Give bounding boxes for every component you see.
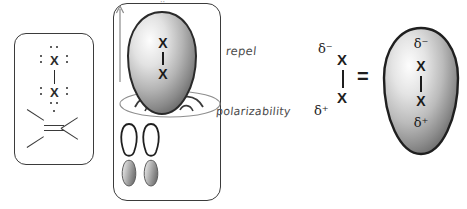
polarized-bond [342, 70, 344, 88]
label-polarizability: polarizability [215, 105, 291, 118]
mid-halogen-bottom-label: X [154, 67, 172, 81]
polarized-top-atom: X [337, 52, 347, 67]
lone-pair-dot [66, 61, 68, 63]
alkene-double-bond-line [44, 130, 64, 131]
lone-pair-dot-faint [53, 110, 55, 112]
right-bond [420, 76, 422, 92]
lewis-single-bond [54, 70, 55, 84]
alkene-bond-line [27, 136, 45, 148]
lone-pair-dot [56, 46, 58, 48]
lewis-structure-group: X X [15, 34, 93, 164]
right-bottom-atom: X [402, 94, 440, 108]
figure-canvas: ·· X X [0, 0, 467, 209]
mid-halogen-bond [162, 52, 164, 65]
lone-pair-dot [40, 93, 42, 95]
alkene-bond-line [61, 117, 79, 129]
equals-sign: = [357, 66, 369, 86]
lone-pair-dot [40, 55, 42, 57]
lone-pair-dot [40, 61, 42, 63]
panel-lewis-structure: X X [14, 33, 94, 165]
lone-pair-dot [56, 102, 58, 104]
lone-pair-dot [50, 102, 52, 104]
delta-negative-label: δ⁻ [318, 42, 333, 55]
lone-pair-dot [40, 87, 42, 89]
polarized-bottom-atom: X [337, 90, 347, 105]
lone-pair-dot [66, 55, 68, 57]
delta-positive-label: δ⁺ [314, 104, 329, 117]
lone-pair-dot [50, 46, 52, 48]
lone-pair-dot [66, 87, 68, 89]
right-top-atom: X [402, 59, 440, 73]
label-repel: repel [225, 44, 257, 58]
lone-pair-dot [66, 93, 68, 95]
right-delta-positive: δ⁺ [402, 116, 440, 129]
p-orbital-pair [114, 124, 220, 188]
lewis-bottom-atom-label: X [50, 86, 59, 99]
panel-orbital-interaction: X X [113, 3, 221, 201]
alkene-bond-line [27, 109, 45, 121]
mid-halogen-top-label: X [154, 36, 172, 50]
lewis-top-atom-label: X [50, 54, 59, 67]
right-delta-negative: δ⁻ [402, 37, 440, 50]
alkene-double-bond-line [44, 125, 64, 126]
